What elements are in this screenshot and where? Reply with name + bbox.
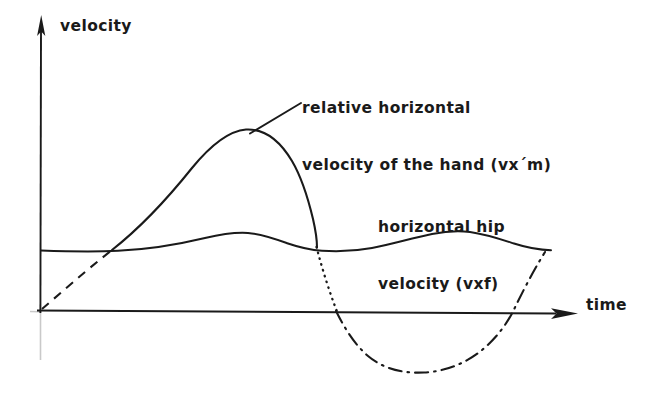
hip-velocity-annotation-line-1: horizontal hip [378, 218, 505, 237]
hand-velocity-annotation-line-2: velocity of the hand (vx´m) [302, 156, 551, 175]
velocity-time-figure: velocity time relative horizontal veloci… [0, 0, 664, 393]
series-hand-velocity-dashed-rise [42, 250, 112, 309]
hip-velocity-annotation-line-2: velocity (vxf) [378, 275, 505, 294]
hand-velocity-annotation-line-1: relative horizontal [302, 99, 551, 118]
series-hand-velocity-solid-hump [112, 129, 317, 250]
hand-velocity-leader-line [250, 103, 301, 134]
x-axis-label: time [586, 296, 627, 315]
y-axis-label: velocity [60, 17, 132, 36]
series-hand-velocity-dotted-descent [317, 247, 338, 312]
hip-velocity-annotation: horizontal hip velocity (vxf) [378, 180, 505, 331]
y-axis-line [40, 30, 41, 313]
